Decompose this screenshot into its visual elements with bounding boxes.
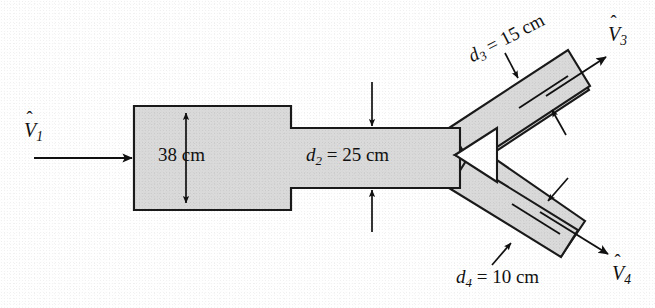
lower-branch-value: = 10 cm bbox=[477, 266, 539, 287]
velocity-symbol-v4: V bbox=[612, 263, 624, 283]
velocity-symbol-v1: V bbox=[24, 120, 36, 140]
upper-outlet-velocity-label: V3 bbox=[608, 24, 627, 47]
velocity-symbol-v3: V bbox=[608, 24, 620, 44]
inlet-diameter-label: 38 cm bbox=[158, 145, 205, 164]
lower-outlet-velocity-label: V4 bbox=[612, 263, 631, 286]
throat-symbol: d bbox=[306, 144, 316, 165]
lower-branch-dimension-arrow-inner bbox=[548, 178, 568, 201]
velocity-subscript-v4: 4 bbox=[624, 272, 631, 287]
throat-subscript: 2 bbox=[316, 153, 322, 168]
throat-diameter-label: d2 = 25 cm bbox=[306, 145, 389, 168]
inlet-velocity-label: V1 bbox=[24, 120, 43, 143]
duct-flow-diagram: V1 38 cm d2 = 25 cm d3 = 15 cm d4 = 10 c… bbox=[0, 0, 655, 308]
lower-branch-symbol: d bbox=[456, 266, 466, 287]
velocity-subscript-v1: 1 bbox=[36, 129, 43, 144]
lower-branch-subscript: 4 bbox=[466, 275, 472, 290]
upper-branch-dimension-arrow-inner bbox=[552, 110, 566, 135]
throat-value: = 25 cm bbox=[327, 144, 389, 165]
upper-branch-dimension-arrow-outer bbox=[505, 53, 518, 78]
lower-branch-diameter-label: d4 = 10 cm bbox=[456, 267, 539, 290]
lower-branch-dimension-arrow-outer bbox=[492, 243, 511, 265]
velocity-subscript-v3: 3 bbox=[620, 33, 627, 48]
